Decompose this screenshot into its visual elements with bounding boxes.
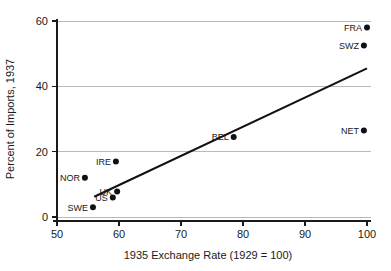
point-label-us: US xyxy=(95,193,108,203)
data-point-net: NET xyxy=(341,126,367,136)
fit-line xyxy=(94,68,367,196)
y-tick-label-0: 0 xyxy=(42,211,48,223)
point-label-swe: SWE xyxy=(67,203,88,213)
data-point-swe: SWE xyxy=(67,203,96,213)
x-tick-label-90: 90 xyxy=(299,228,311,240)
chart-canvas: 5060708090100 0204060 FRASWZNETBELIRENOR… xyxy=(0,0,391,271)
x-tick-label-100: 100 xyxy=(358,228,376,240)
point-label-net: NET xyxy=(341,126,360,136)
regression-line xyxy=(94,68,367,196)
point-label-fra: FRA xyxy=(344,23,362,33)
data-point-nor: NOR xyxy=(60,173,88,183)
data-point-bel: BEL xyxy=(212,132,237,142)
point-label-ire: IRE xyxy=(96,157,111,167)
y-tick-label-20: 20 xyxy=(36,146,48,158)
x-tick-label-70: 70 xyxy=(175,228,187,240)
data-point-us: US xyxy=(95,193,116,203)
y-tick-label-60: 60 xyxy=(36,15,48,27)
data-point-fra: FRA xyxy=(344,23,370,33)
scatter-chart: 5060708090100 0204060 FRASWZNETBELIRENOR… xyxy=(0,0,391,271)
marker-bel xyxy=(231,134,237,140)
point-label-nor: NOR xyxy=(60,173,81,183)
point-label-bel: BEL xyxy=(212,132,229,142)
x-tick-label-60: 60 xyxy=(113,228,125,240)
marker-fra xyxy=(364,25,370,31)
y-axis-title: Percent of Imports, 1937 xyxy=(4,59,16,179)
x-tick-label-50: 50 xyxy=(51,228,63,240)
y-tick-label-40: 40 xyxy=(36,80,48,92)
data-point-swz: SWZ xyxy=(339,41,367,51)
marker-uk xyxy=(114,189,120,195)
data-point-ire: IRE xyxy=(96,157,119,167)
marker-net xyxy=(361,127,367,133)
y-tick-labels: 0204060 xyxy=(36,15,48,223)
point-label-swz: SWZ xyxy=(339,41,359,51)
marker-us xyxy=(110,194,116,200)
marker-nor xyxy=(82,175,88,181)
data-points: FRASWZNETBELIRENORUKUSSWE xyxy=(60,23,370,213)
marker-ire xyxy=(113,158,119,164)
x-tick-labels: 5060708090100 xyxy=(51,228,376,240)
x-axis-title: 1935 Exchange Rate (1929 = 100) xyxy=(124,249,293,261)
marker-swe xyxy=(90,204,96,210)
marker-swz xyxy=(361,43,367,49)
x-tick-label-80: 80 xyxy=(237,228,249,240)
